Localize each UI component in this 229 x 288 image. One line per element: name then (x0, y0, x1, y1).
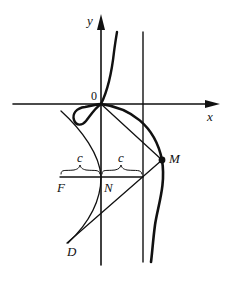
x-axis-arrow-icon (205, 100, 220, 108)
curve-upper-branch (101, 32, 117, 104)
curve-loop (73, 104, 101, 125)
point-D-label: D (67, 245, 76, 258)
point-M-marker (159, 157, 166, 164)
point-N-label: N (104, 181, 113, 194)
segment-c-left-label: c (77, 151, 83, 164)
y-axis-label: y (87, 14, 93, 27)
origin-label: 0 (91, 90, 97, 102)
segment-c-right-label: c (118, 151, 124, 164)
segment-origin-M (101, 104, 162, 160)
x-axis-label: x (207, 110, 213, 123)
point-M-label: M (169, 152, 180, 165)
y-axis-arrow-icon (97, 14, 105, 30)
brace-left-icon (61, 165, 100, 174)
brace-right-icon (102, 165, 142, 174)
segment-M-D (67, 160, 162, 243)
diagram-canvas (0, 0, 229, 288)
point-F-label: F (57, 181, 65, 194)
